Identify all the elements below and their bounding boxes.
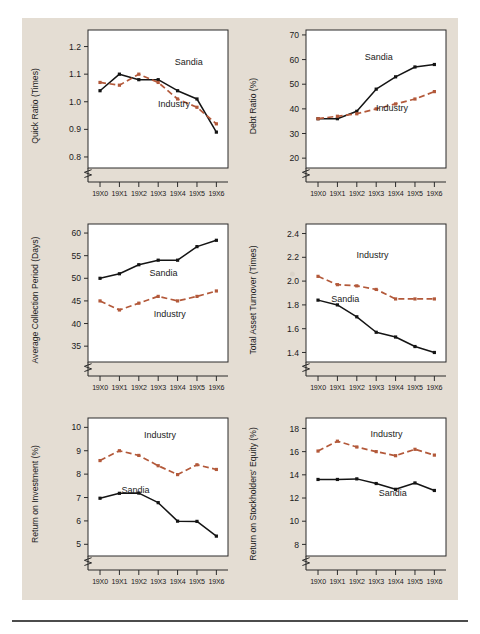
x-tick-label: 19X4 (170, 384, 186, 392)
y-tick-label: 40 (289, 104, 299, 114)
industry-data-point (433, 297, 436, 300)
sandia-data-point (336, 478, 339, 481)
industry-data-point (394, 297, 397, 300)
y-tick-label: 1.8 (287, 300, 299, 310)
industry-series-label: Industry (144, 430, 177, 440)
sandia-series-label: Sandia (379, 488, 407, 498)
x-tick-label: 19X2 (349, 190, 365, 198)
industry-data-point (355, 112, 358, 115)
x-tick-label: 19X0 (92, 384, 108, 392)
x-tick-label: 19X5 (407, 190, 423, 198)
chart-return-on-stockholders-equity: 8101214161819X019X119X219X319X419X519X6R… (240, 406, 458, 600)
sandia-data-point (137, 263, 140, 266)
industry-series-label: Industry (376, 103, 409, 113)
x-tick-label: 19X3 (150, 578, 166, 586)
y-tick-label: 50 (71, 273, 81, 283)
y-axis-title: Return on Stockholders' Equity (%) (248, 427, 258, 561)
x-tick-label: 19X2 (349, 384, 365, 392)
chart-grid: 0.80.91.01.11.219X019X119X219X319X419X51… (22, 18, 458, 600)
y-axis-title: Average Collection Period (Days) (30, 236, 40, 363)
sandia-data-point (433, 63, 436, 66)
y-tick-label: 12 (289, 493, 299, 503)
y-tick-label: 1.1 (69, 69, 81, 79)
x-tick-label: 19X6 (426, 384, 442, 392)
industry-data-point (215, 468, 218, 471)
industry-data-point (413, 97, 416, 100)
x-tick-label: 19X5 (189, 578, 205, 586)
y-tick-label: 16 (289, 447, 299, 457)
sandia-data-point (215, 239, 218, 242)
y-tick-label: 70 (289, 30, 299, 40)
x-tick-label: 19X2 (131, 190, 147, 198)
axis-break-icon (84, 170, 91, 178)
y-tick-label: 30 (289, 129, 299, 139)
chart-cell-return-on-investment: 567891019X019X119X219X319X419X519X6Retur… (22, 406, 240, 600)
industry-data-point (176, 473, 179, 476)
x-tick-label: 19X5 (189, 190, 205, 198)
sandia-data-point (394, 335, 397, 338)
sandia-data-point (355, 315, 358, 318)
x-tick-label: 19X5 (189, 384, 205, 392)
sandia-data-point (118, 492, 121, 495)
y-axis-title: Total Asset Turnover (Times) (248, 245, 258, 354)
industry-data-point (215, 122, 218, 125)
sandia-data-point (195, 97, 198, 100)
x-tick-label: 19X4 (388, 384, 404, 392)
chart-average-collection-period: 35404550556019X019X119X219X319X419X519X6… (22, 212, 240, 406)
industry-data-point (137, 454, 140, 457)
industry-data-point (355, 284, 358, 287)
sandia-series-label: Sandia (122, 485, 150, 495)
industry-data-point (316, 449, 319, 452)
x-tick-label: 19X3 (368, 190, 384, 198)
y-tick-label: 1.0 (69, 97, 81, 107)
industry-data-point (137, 302, 140, 305)
y-tick-label: 14 (289, 470, 299, 480)
sandia-data-point (195, 245, 198, 248)
sandia-data-point (137, 78, 140, 81)
y-tick-label: 10 (289, 516, 299, 526)
x-tick-label: 19X4 (388, 190, 404, 198)
industry-data-point (195, 295, 198, 298)
x-tick-label: 19X4 (388, 578, 404, 586)
x-tick-label: 19X6 (426, 578, 442, 586)
y-axis-title: Return on Investment (%) (30, 445, 40, 543)
chart-cell-total-asset-turnover: 1.41.61.82.02.22.419X019X119X219X319X419… (240, 212, 458, 406)
x-tick-label: 19X1 (330, 578, 346, 586)
y-tick-label: 8 (294, 540, 299, 550)
sandia-data-point (355, 477, 358, 480)
sandia-data-point (433, 489, 436, 492)
page-bottom-rule (12, 620, 468, 622)
sandia-data-point (413, 65, 416, 68)
sandia-data-point (215, 535, 218, 538)
x-tick-label: 19X0 (310, 384, 326, 392)
sandia-data-point (98, 497, 101, 500)
industry-data-point (157, 464, 160, 467)
y-tick-label: 0.9 (69, 124, 81, 134)
sandia-data-point (316, 299, 319, 302)
sandia-data-point (118, 73, 121, 76)
y-tick-label: 35 (71, 341, 81, 351)
chart-debt-ratio: 20304050607019X019X119X219X319X419X519X6… (240, 18, 458, 212)
industry-data-point (394, 454, 397, 457)
industry-data-point (336, 115, 339, 118)
industry-data-point (118, 308, 121, 311)
x-tick-label: 19X1 (112, 578, 128, 586)
sandia-data-point (375, 88, 378, 91)
sandia-data-point (157, 78, 160, 81)
industry-data-point (195, 106, 198, 109)
x-tick-label: 19X0 (310, 578, 326, 586)
industry-data-point (413, 297, 416, 300)
sandia-series-label: Sandia (150, 268, 178, 278)
sandia-data-point (157, 501, 160, 504)
x-tick-label: 19X3 (150, 190, 166, 198)
industry-data-point (176, 299, 179, 302)
y-tick-label: 20 (289, 153, 299, 163)
industry-data-point (195, 463, 198, 466)
axis-break-icon (302, 170, 309, 178)
industry-data-point (118, 449, 121, 452)
industry-data-point (137, 73, 140, 76)
y-axis-title: Quick Ratio (Times) (30, 68, 40, 144)
sandia-series-label: Sandia (365, 52, 393, 62)
x-tick-label: 19X1 (330, 190, 346, 198)
industry-series-label: Industry (154, 309, 187, 319)
